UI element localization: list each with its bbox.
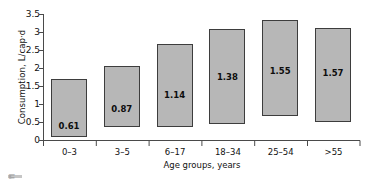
x-tick-label-25-54: 25–54 [254, 148, 307, 157]
bar-0-3[interactable]: 0.61 [51, 79, 87, 137]
bar-3-5[interactable]: 0.87 [104, 66, 140, 127]
bar-value-label: 1.55 [263, 66, 297, 76]
caption-text: F [8, 172, 20, 179]
bar-value-label: 1.14 [158, 90, 192, 100]
bar-over-55[interactable]: 1.57 [315, 28, 351, 122]
bar-25-54[interactable]: 1.55 [262, 20, 298, 116]
x-axis-ticks [44, 141, 361, 147]
y-axis-ticks [39, 15, 43, 141]
bar-18-34[interactable]: 1.38 [209, 29, 245, 124]
bar-6-17[interactable]: 1.14 [157, 44, 193, 127]
x-axis-title: Age groups, years [43, 160, 361, 170]
bar-value-label: 0.61 [52, 121, 86, 131]
x-tick-label-6-17: 6–17 [149, 148, 202, 157]
x-tick-label-3-5: 3–5 [96, 148, 149, 157]
bar-value-label: 1.57 [316, 68, 350, 78]
x-tick-label-18-34: 18–34 [201, 148, 254, 157]
bar-value-label: 1.38 [210, 72, 244, 82]
x-tick-label-0-3: 0–3 [43, 148, 96, 157]
bar-value-label: 0.87 [105, 104, 139, 114]
figure-bar-chart: Consumption, L/cap·d 3.5 3 2.5 2 1.5 1 0… [0, 0, 371, 179]
x-tick-label-over-55: >55 [307, 148, 360, 157]
